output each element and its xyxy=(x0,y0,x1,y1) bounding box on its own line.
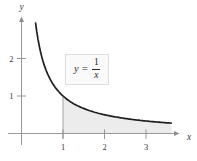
x-tick-label: 2 xyxy=(102,142,106,152)
equation-lhs: y = xyxy=(74,64,88,75)
y-tick-label: 1 xyxy=(9,91,13,101)
y-axis-ticks: 12 xyxy=(9,54,26,102)
y-axis-arrowhead-icon xyxy=(19,17,24,23)
y-tick-label: 2 xyxy=(9,54,13,64)
x-tick-label: 3 xyxy=(144,142,148,152)
equation-label: y = 1 x xyxy=(65,54,109,85)
fraction-denominator: x xyxy=(94,71,98,81)
equation-fraction: 1 x xyxy=(92,58,100,81)
fraction-numerator: 1 xyxy=(94,58,99,68)
x-axis-arrowhead-icon xyxy=(174,131,180,136)
x-axis-label: x xyxy=(186,132,192,142)
shaded-area-under-curve xyxy=(63,96,172,134)
x-tick-label: 1 xyxy=(61,142,65,152)
y-axis-label: y xyxy=(18,2,24,12)
figure-y-equals-1-over-x: 123 12 x y y = 1 x xyxy=(0,0,197,161)
